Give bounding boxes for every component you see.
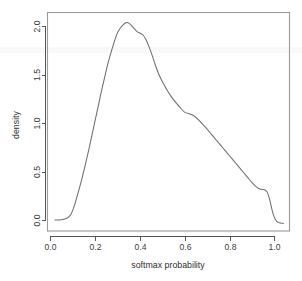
y-tick-label-1.5: 1.5 — [32, 69, 42, 81]
y-tick-label-2.0: 2.0 — [32, 20, 42, 32]
y-tick-label-0.0: 0.0 — [32, 214, 42, 226]
density-plot-figure: 2.0 1.5 1.0 0.5 0.0 density 0.0 0.2 0.4 … — [0, 0, 302, 281]
x-tick-label-0.2: 0.2 — [90, 242, 102, 252]
density-chart-svg: 2.0 1.5 1.0 0.5 0.0 density 0.0 0.2 0.4 … — [0, 0, 302, 281]
x-tick-label-0.8: 0.8 — [225, 242, 237, 252]
x-tick-label-0.6: 0.6 — [180, 242, 192, 252]
x-axis-title: softmax probability — [131, 260, 205, 270]
x-tick-label-0.0: 0.0 — [45, 242, 57, 252]
x-tick-label-0.4: 0.4 — [135, 242, 147, 252]
y-axis-title: density — [11, 110, 21, 138]
y-tick-label-0.5: 0.5 — [32, 166, 42, 178]
y-tick-label-1.0: 1.0 — [32, 117, 42, 129]
x-tick-label-1.0: 1.0 — [269, 242, 281, 252]
